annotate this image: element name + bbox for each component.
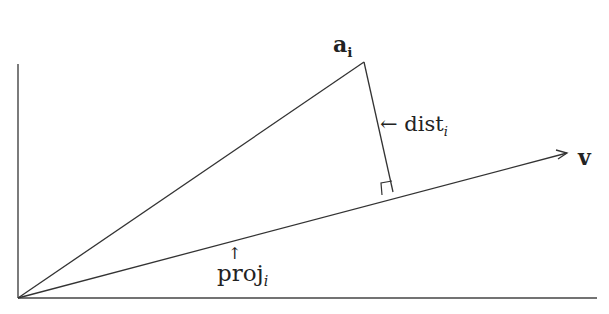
vector-v-line bbox=[18, 153, 567, 298]
point-a-base: a bbox=[333, 31, 347, 57]
vector-v-base: v bbox=[578, 144, 591, 170]
projection-base: proj bbox=[217, 260, 264, 286]
projection-label: proji bbox=[217, 262, 268, 288]
distance-label: ← disti bbox=[380, 114, 448, 138]
vector-a-line bbox=[18, 62, 364, 298]
distance-base: dist bbox=[404, 112, 443, 136]
distance-subscript: i bbox=[444, 124, 448, 139]
point-a-subscript: i bbox=[347, 44, 352, 60]
left-arrow-icon: ← bbox=[380, 112, 398, 136]
diagram-canvas bbox=[0, 0, 609, 314]
projection-subscript: i bbox=[264, 273, 269, 289]
point-a-label: ai bbox=[333, 33, 352, 59]
vector-v-label: v bbox=[578, 146, 591, 168]
